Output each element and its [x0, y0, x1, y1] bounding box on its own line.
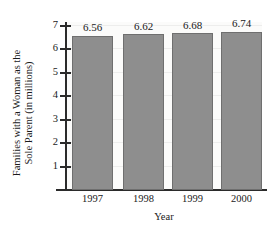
- y-tick-label-1: 1: [44, 161, 58, 172]
- y-tick-mark-5: [60, 72, 71, 74]
- y-tick-label-4: 4: [44, 90, 58, 101]
- x-axis-title: Year: [66, 212, 262, 223]
- bar-chart: Families with a Woman as the Sole Parent…: [0, 0, 278, 232]
- bar-1998: [123, 34, 164, 190]
- bar-value-2000: 6.74: [221, 18, 262, 29]
- bar-1997: [72, 36, 113, 190]
- bar-2000: [221, 32, 262, 190]
- x-tick-label-1998: 1998: [123, 194, 164, 205]
- y-tick-mark-3: [60, 119, 71, 121]
- x-tick-label-1999: 1999: [172, 194, 213, 205]
- y-tick-label-2: 2: [44, 137, 58, 148]
- y-axis-title-line-2: Sole Parent (in millions): [23, 62, 35, 165]
- y-tick-mark-2: [60, 142, 71, 144]
- bar-1999: [172, 33, 213, 190]
- y-tick-label-6: 6: [44, 43, 58, 54]
- y-tick-mark-6: [60, 48, 71, 50]
- y-tick-mark-4: [60, 95, 71, 97]
- y-tick-mark-7: [60, 25, 71, 27]
- bar-value-1998: 6.62: [123, 21, 164, 32]
- y-axis-title: Families with a Woman as the Sole Parent…: [6, 23, 40, 203]
- y-tick-label-5: 5: [44, 67, 58, 78]
- bar-value-1999: 6.68: [172, 20, 213, 31]
- y-axis-title-line-1: Families with a Woman as the: [11, 50, 23, 176]
- x-tick-label-2000: 2000: [221, 194, 262, 205]
- y-tick-label-3: 3: [44, 114, 58, 125]
- x-tick-label-1997: 1997: [72, 194, 113, 205]
- y-tick-mark-1: [60, 166, 71, 168]
- y-tick-label-7: 7: [44, 20, 58, 31]
- bar-value-1997: 6.56: [72, 22, 113, 33]
